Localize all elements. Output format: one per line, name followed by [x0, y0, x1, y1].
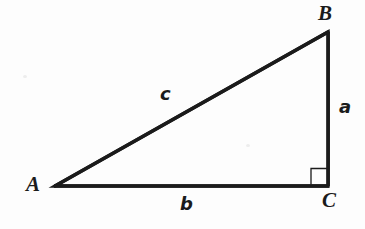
vertex-label-c: C: [322, 190, 336, 211]
side-label-a: a: [339, 98, 351, 116]
vertex-label-b: B: [318, 3, 332, 24]
side-label-b: b: [180, 195, 193, 213]
side-label-c: c: [160, 85, 171, 103]
scan-speck: [23, 75, 27, 78]
vertex-label-a: A: [26, 174, 40, 195]
side-c-hypotenuse: [55, 32, 328, 186]
figure-canvas: A B C a b c: [0, 0, 365, 229]
right-angle-marker-icon: [311, 169, 327, 185]
scan-speck: [246, 144, 250, 147]
